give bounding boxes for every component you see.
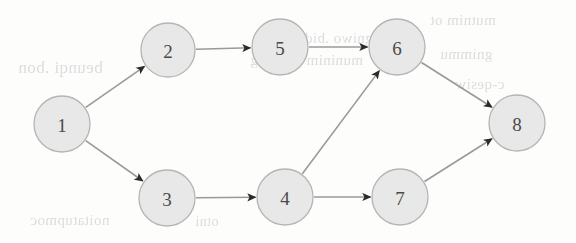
graph-edge-2-to-5 xyxy=(196,48,251,49)
graph-node-4[interactable]: 4 xyxy=(257,169,313,225)
graph-edge-7-to-8 xyxy=(425,139,493,182)
graph-edge-3-to-4 xyxy=(196,197,256,198)
node-label-2: 2 xyxy=(163,41,173,62)
graph-node-5[interactable]: 5 xyxy=(252,19,308,75)
node-label-8: 8 xyxy=(512,114,522,135)
graph-edge-6-to-8 xyxy=(421,63,492,108)
graph-node-1[interactable]: 1 xyxy=(34,96,90,152)
graph-node-7[interactable]: 7 xyxy=(372,169,428,225)
node-label-5: 5 xyxy=(275,38,285,59)
graph-edge-1-to-3 xyxy=(86,141,143,181)
node-label-3: 3 xyxy=(162,189,172,210)
graph-edge-1-to-2 xyxy=(86,66,145,107)
directed-graph: 12345678 xyxy=(0,0,576,243)
graph-node-8[interactable]: 8 xyxy=(489,95,545,151)
graph-node-3[interactable]: 3 xyxy=(139,170,195,226)
node-label-7: 7 xyxy=(395,188,405,209)
node-label-4: 4 xyxy=(280,188,290,209)
graph-node-6[interactable]: 6 xyxy=(369,19,425,75)
graph-edge-4-to-6 xyxy=(302,71,379,174)
figure-canvas: beunqi .bongniwo .bidtmuninim a gnivigmu… xyxy=(0,0,576,243)
node-label-6: 6 xyxy=(392,38,402,59)
node-label-1: 1 xyxy=(57,115,67,136)
node-layer: 12345678 xyxy=(34,19,545,226)
graph-node-2[interactable]: 2 xyxy=(141,23,195,77)
